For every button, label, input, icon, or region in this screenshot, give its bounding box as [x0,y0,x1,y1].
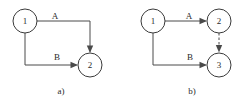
edge-a-B-arrowhead [71,62,79,68]
edge-a-A-arrowhead [87,46,93,54]
edge-b-A-label: A [186,11,193,21]
edge-b-B-line [153,33,205,65]
node-a-1-label: 1 [23,16,28,26]
edge-a-B-label: B [54,52,60,62]
node-b-3-label: 3 [217,60,222,70]
node-b-2-label: 2 [217,16,222,26]
node-b-1[interactable]: 1 [141,9,165,33]
edge-b-dashed [216,33,222,53]
diagram-a: A B 1 2 a) [13,9,102,96]
edge-b-dashed-arrowhead [216,45,222,53]
node-a-2[interactable]: 2 [78,53,102,77]
node-a-2-label: 2 [88,60,93,70]
figure-container: A B 1 2 a) [0,0,252,104]
node-b-3[interactable]: 3 [207,53,231,77]
edge-b-B-arrowhead [200,62,208,68]
edge-a-A: A [37,11,93,53]
edge-b-B-label: B [187,52,193,62]
edge-a-B-line [25,33,76,65]
node-b-1-label: 1 [151,16,156,26]
edge-a-B: B [25,33,78,68]
edge-a-A-label: A [52,11,59,21]
caption-a: a) [58,86,65,96]
caption-b: b) [188,86,196,96]
node-b-2[interactable]: 2 [207,9,231,33]
edge-b-A-arrowhead [200,18,208,24]
diagram-b: A B 1 2 [141,9,231,96]
edge-b-A: A [165,11,207,24]
graph-diagram-figure: A B 1 2 a) [0,0,252,104]
node-a-1[interactable]: 1 [13,9,37,33]
edge-a-A-line [37,21,90,51]
edge-b-B: B [153,33,207,68]
